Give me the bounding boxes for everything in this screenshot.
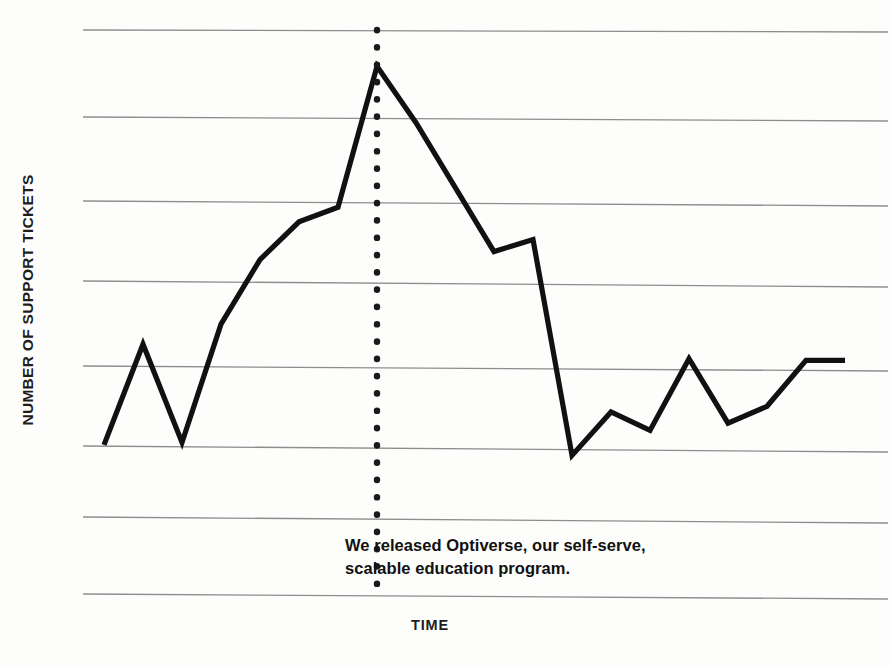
- annotation-line-1: We released Optiverse, our self-serve,: [345, 534, 785, 557]
- gridline: [83, 517, 888, 523]
- data-series-line: [104, 66, 845, 455]
- gridlines: [83, 30, 888, 599]
- line-chart: NUMBER OF SUPPORT TICKETS We released Op…: [0, 0, 890, 668]
- annotation-line-2: scalable education program.: [345, 557, 785, 580]
- x-axis-title-label: TIME: [411, 617, 449, 633]
- gridline: [83, 30, 888, 32]
- gridline: [83, 117, 888, 121]
- gridline: [83, 281, 888, 287]
- gridline: [83, 446, 888, 452]
- x-axis-title: TIME: [0, 617, 890, 633]
- gridline: [83, 594, 888, 599]
- gridline: [83, 201, 888, 206]
- annotation-text: We released Optiverse, our self-serve, s…: [345, 534, 785, 581]
